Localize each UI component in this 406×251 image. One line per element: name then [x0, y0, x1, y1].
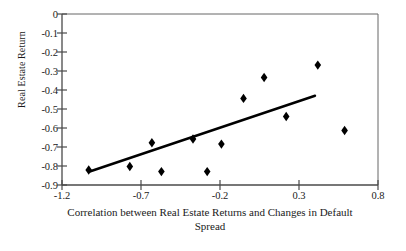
data-point	[341, 126, 348, 135]
data-point	[240, 94, 247, 103]
x-axis-label-line2: Spread	[195, 220, 226, 232]
scatter-chart-figure: Real Estate Return 0 -0.1 -0.2 -0.3 -0.4…	[0, 0, 406, 251]
data-point	[85, 165, 92, 174]
data-point	[283, 112, 290, 121]
trendline	[89, 96, 315, 172]
data-point	[158, 167, 165, 176]
data-point	[315, 60, 322, 69]
axis-frame	[62, 14, 378, 185]
data-point	[218, 139, 225, 148]
x-axis-label-line1: Correlation between Real Estate Returns …	[67, 206, 352, 218]
data-point	[204, 167, 211, 176]
data-point	[127, 162, 134, 171]
data-point	[261, 73, 268, 82]
data-point	[149, 138, 156, 147]
x-axis-label: Correlation between Real Estate Returns …	[40, 205, 380, 233]
